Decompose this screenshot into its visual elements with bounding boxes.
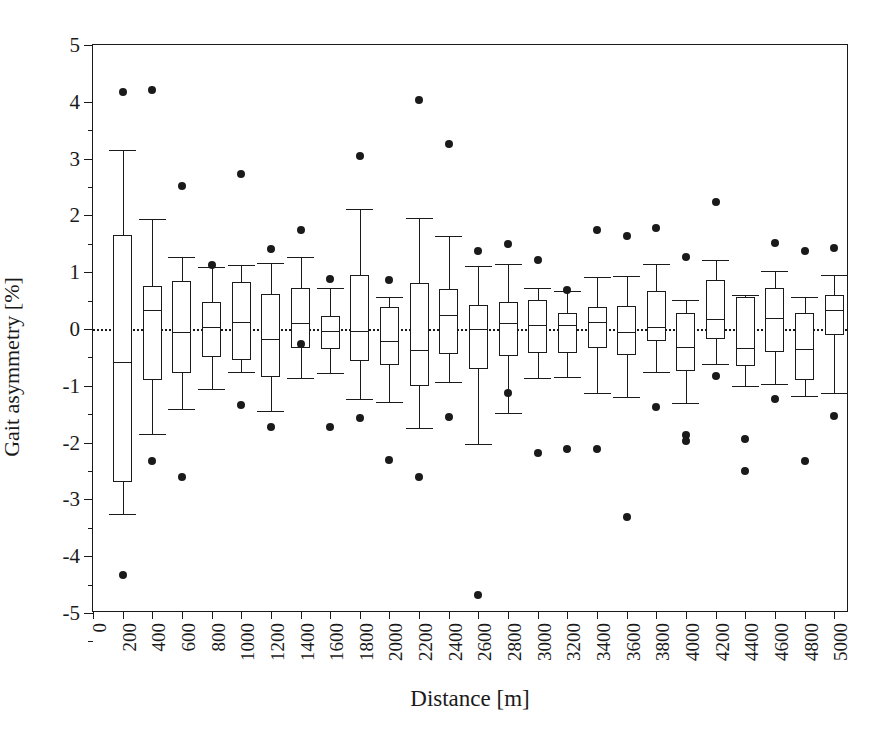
gait-asymmetry-boxplot-figure: Gait asymmetry [%] -5-4-3-2-1012345 0200…	[0, 0, 880, 734]
x-axis-tick	[330, 611, 331, 619]
y-axis-tick	[84, 102, 93, 103]
whisker-upper	[449, 236, 450, 289]
whisker-lower	[478, 369, 479, 443]
x-axis-tick-label: 1200	[267, 623, 289, 661]
outlier-point	[326, 275, 334, 283]
y-axis-minor-tick	[88, 641, 93, 642]
whisker-lower	[656, 341, 657, 372]
whisker-upper	[152, 219, 153, 287]
median-line	[588, 322, 607, 323]
y-axis-tick	[84, 556, 93, 557]
whisker-cap-upper	[643, 264, 670, 265]
x-axis-tick	[538, 611, 539, 619]
median-line	[232, 322, 251, 323]
x-axis-tick-label: 3000	[534, 623, 556, 661]
x-axis-tick	[567, 611, 568, 619]
median-line	[499, 323, 518, 324]
box-iqr	[261, 294, 280, 377]
x-axis-tick-label: 2400	[445, 623, 467, 661]
x-axis-title: Distance [m]	[92, 686, 848, 712]
whisker-lower	[538, 353, 539, 379]
y-axis-minor-tick	[88, 414, 93, 415]
y-axis-tick	[84, 272, 93, 273]
y-axis-tick	[84, 386, 93, 387]
median-line	[439, 315, 458, 316]
whisker-cap-upper	[761, 271, 788, 272]
box-iqr	[469, 305, 488, 370]
whisker-upper	[686, 300, 687, 312]
x-axis-tick	[449, 611, 450, 619]
whisker-cap-lower	[495, 413, 522, 414]
whisker-lower	[123, 482, 124, 513]
outlier-point	[504, 240, 512, 248]
x-axis-tick	[212, 611, 213, 619]
y-axis-minor-tick	[88, 244, 93, 245]
median-line	[202, 327, 221, 328]
outlier-point	[445, 140, 453, 148]
whisker-cap-upper	[317, 288, 344, 289]
y-axis-minor-tick	[88, 130, 93, 131]
median-line	[676, 347, 695, 348]
whisker-upper	[597, 277, 598, 307]
y-axis-tick-label: 1	[20, 260, 80, 285]
median-line	[143, 310, 162, 311]
whisker-cap-upper	[257, 263, 284, 264]
outlier-point	[682, 253, 690, 261]
y-axis-tick	[84, 443, 93, 444]
x-axis-tick-label: 4800	[801, 623, 823, 661]
y-axis-minor-tick	[88, 585, 93, 586]
box-iqr	[499, 302, 518, 357]
x-axis-tick-label: 4000	[682, 623, 704, 661]
outlier-point	[534, 449, 542, 457]
x-axis-tick-label: 4200	[712, 623, 734, 661]
outlier-point	[771, 395, 779, 403]
whisker-cap-lower	[791, 396, 818, 397]
outlier-point	[385, 276, 393, 284]
outlier-point	[119, 571, 127, 579]
y-axis-minor-tick	[88, 357, 93, 358]
outlier-point	[119, 88, 127, 96]
box-iqr	[172, 281, 191, 374]
whisker-cap-lower	[257, 411, 284, 412]
whisker-cap-upper	[821, 275, 848, 276]
x-axis-tick-label: 4600	[771, 623, 793, 661]
box-iqr	[113, 235, 132, 483]
outlier-point	[385, 456, 393, 464]
outlier-point	[652, 224, 660, 232]
x-axis-tick-label: 3200	[563, 623, 585, 661]
whisker-cap-lower	[109, 514, 136, 515]
y-axis-tick	[84, 613, 93, 614]
whisker-lower	[271, 377, 272, 411]
box-iqr	[202, 302, 221, 357]
whisker-lower	[182, 373, 183, 408]
whisker-lower	[805, 380, 806, 396]
outlier-point	[267, 423, 275, 431]
outlier-point	[593, 445, 601, 453]
box-iqr	[647, 291, 666, 341]
outlier-point	[712, 198, 720, 206]
box-iqr	[380, 307, 399, 364]
whisker-cap-lower	[702, 364, 729, 365]
box-iqr	[558, 313, 577, 353]
whisker-lower	[716, 339, 717, 365]
x-axis-tick	[271, 611, 272, 619]
y-axis-tick	[84, 45, 93, 46]
whisker-cap-lower	[465, 444, 492, 445]
y-axis-tick-label: -3	[20, 487, 80, 512]
median-line	[380, 341, 399, 342]
x-axis-tick-label: 1400	[297, 623, 319, 661]
outlier-point	[326, 423, 334, 431]
x-axis-tick	[478, 611, 479, 619]
x-axis-tick	[716, 611, 717, 619]
y-axis-tick	[84, 499, 93, 500]
outlier-point	[830, 412, 838, 420]
outlier-point	[830, 244, 838, 252]
outlier-point	[297, 226, 305, 234]
box-iqr	[291, 288, 310, 348]
y-axis-tick-label: -1	[20, 373, 80, 398]
outlier-point	[297, 340, 305, 348]
outlier-point	[237, 401, 245, 409]
whisker-lower	[212, 357, 213, 388]
whisker-cap-upper	[524, 288, 551, 289]
y-axis-minor-tick	[88, 528, 93, 529]
